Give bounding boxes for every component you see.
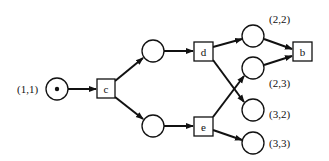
place-3-2 [242,99,264,121]
place-3-3 [242,132,264,154]
arc-e-p33 [213,130,242,140]
place-1-1 [46,78,68,100]
place-upper [142,40,164,62]
transition-e: e [194,117,213,136]
arc-d-p22 [213,39,242,47]
token-dot [55,87,59,91]
place-2-3-label: (2,3) [269,77,290,90]
arc-c-pl [115,97,143,119]
place-1-1-label: (1,1) [17,83,38,96]
arc-p23-b [264,56,292,65]
place-2-2 [242,25,264,47]
transition-d-label: d [201,46,207,58]
place-lower [142,115,164,137]
transition-c-label: c [104,83,109,95]
arc-c-pu [115,58,143,81]
transition-b-label: b [300,46,306,58]
transition-c: c [97,79,115,98]
arc-p22-b [264,39,292,49]
petri-net-diagram: c d e b (1,1) (2,2) (2,3) (3,2) (3,3) [0,0,329,161]
place-3-3-label: (3,3) [269,137,290,150]
place-2-2-label: (2,2) [269,13,290,26]
transition-d: d [194,42,213,61]
transition-b: b [293,42,312,61]
transition-e-label: e [201,121,206,133]
place-3-2-label: (3,2) [269,108,290,121]
place-2-3 [242,57,264,79]
